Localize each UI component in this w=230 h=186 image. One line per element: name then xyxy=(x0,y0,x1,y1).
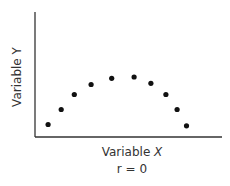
data-point xyxy=(163,92,168,97)
data-point xyxy=(175,107,180,112)
data-point xyxy=(72,92,77,97)
correlation-annotation: r = 0 xyxy=(112,162,152,176)
data-point xyxy=(89,82,94,87)
data-point xyxy=(132,74,137,79)
x-axis-label-prefix: Variable xyxy=(102,145,151,159)
data-point xyxy=(59,107,64,112)
x-axis-label: Variable X xyxy=(100,145,164,159)
data-point xyxy=(184,123,189,128)
data-point xyxy=(46,122,51,127)
x-axis-label-variable: X xyxy=(154,145,162,159)
data-points xyxy=(46,74,190,128)
data-point xyxy=(148,81,153,86)
y-axis-label: Variable Y xyxy=(10,42,24,112)
data-point xyxy=(109,76,114,81)
